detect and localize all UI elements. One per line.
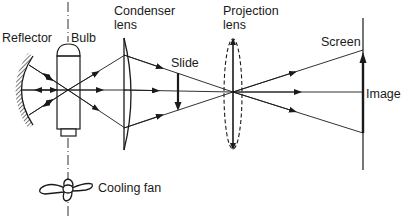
cooling-fan-icon: [40, 179, 93, 201]
slide-label: Slide: [171, 57, 199, 70]
projection-lens-label-line1: Projection: [223, 5, 279, 18]
image-label: Image: [366, 88, 401, 101]
condenser-lens-icon: [124, 38, 131, 150]
screen-label: Screen: [321, 36, 361, 49]
projection-lens-label-line2: lens: [223, 19, 246, 32]
projector-diagram: Reflector Bulb Condenser lens Slide Proj…: [0, 0, 401, 221]
condenser-lens-label-line1: Condenser: [114, 5, 175, 18]
optics-drawing: [0, 0, 401, 221]
source-rays: [68, 55, 125, 128]
condenser-lens-label-line2: lens: [114, 19, 137, 32]
reflector-rays: [22, 65, 68, 115]
reflector-icon: [16, 53, 34, 128]
reflector-label: Reflector: [2, 32, 52, 45]
bulb-label: Bulb: [71, 32, 96, 45]
slide-arrow: [175, 73, 182, 111]
projected-rays: [233, 50, 363, 133]
cooling-fan-label: Cooling fan: [98, 182, 161, 195]
